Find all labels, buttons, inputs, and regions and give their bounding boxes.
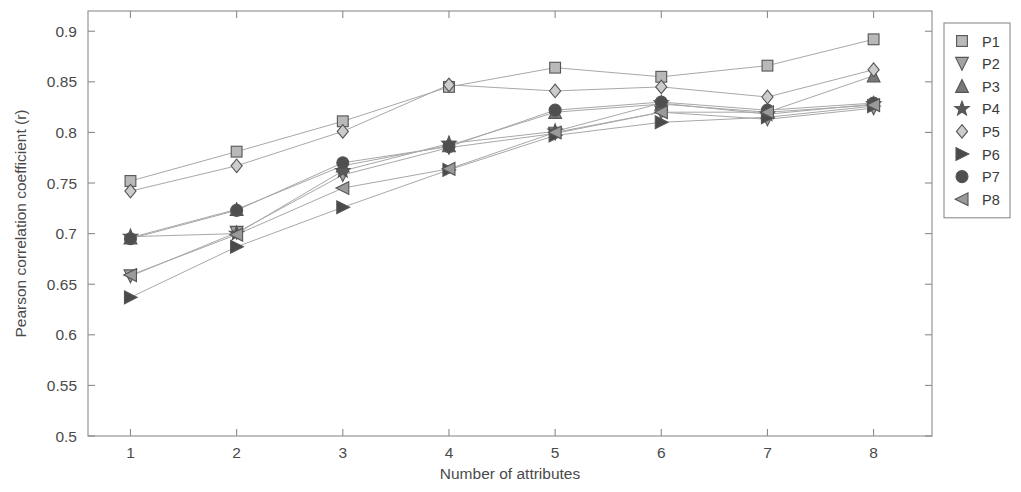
- plot-frame: [88, 11, 932, 436]
- legend-label-p6: P6: [982, 147, 1000, 163]
- data-point-p1-x2: [231, 146, 242, 157]
- legend-label-p2: P2: [982, 56, 1000, 72]
- legend-box: [944, 23, 1010, 218]
- data-point-p7-x1: [124, 233, 136, 245]
- data-point-p1-x7: [762, 60, 773, 71]
- legend-marker-p1: [957, 36, 968, 47]
- x-tick-label: 2: [232, 444, 241, 461]
- y-tick-label: 0.8: [55, 124, 77, 141]
- data-point-p7-x5: [549, 104, 561, 116]
- y-tick-label: 0.85: [47, 73, 77, 90]
- y-tick-label: 0.55: [47, 377, 77, 394]
- x-axis-label: Number of attributes: [440, 465, 581, 482]
- data-point-p1-x8: [868, 34, 879, 45]
- y-tick-label: 0.7: [55, 225, 77, 242]
- scatter-line-chart: 0.50.550.60.650.70.750.80.850.912345678N…: [0, 0, 1021, 492]
- legend-label-p1: P1: [982, 34, 1000, 50]
- y-tick-label: 0.65: [47, 276, 77, 293]
- x-tick-label: 6: [657, 444, 666, 461]
- legend-label-p8: P8: [982, 192, 1000, 208]
- x-tick-label: 5: [551, 444, 560, 461]
- y-axis-label: Pearson correlation coefficient (r): [12, 109, 29, 337]
- legend-label-p4: P4: [982, 101, 1000, 117]
- y-tick-label: 0.9: [55, 23, 77, 40]
- data-point-p7-x3: [337, 157, 349, 169]
- y-tick-label: 0.75: [47, 175, 77, 192]
- x-tick-label: 4: [445, 444, 454, 461]
- x-tick-label: 3: [338, 444, 347, 461]
- data-point-p1-x5: [550, 62, 561, 73]
- data-point-p7-x4: [443, 141, 455, 153]
- x-tick-label: 1: [126, 444, 135, 461]
- y-tick-label: 0.6: [55, 326, 77, 343]
- chart-figure: 0.50.550.60.650.70.750.80.850.912345678N…: [0, 0, 1021, 492]
- x-tick-label: 8: [869, 444, 878, 461]
- legend-marker-p7: [956, 171, 968, 183]
- x-tick-label: 7: [763, 444, 772, 461]
- legend-label-p3: P3: [982, 79, 1000, 95]
- y-tick-label: 0.5: [55, 428, 77, 445]
- legend-label-p5: P5: [982, 124, 1000, 140]
- legend-label-p7: P7: [982, 169, 1000, 185]
- data-point-p7-x2: [231, 204, 243, 216]
